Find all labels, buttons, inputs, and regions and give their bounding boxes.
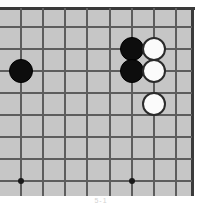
black-stone-left[interactable] [9, 59, 33, 83]
go-diagram-screenshot: 5-1 [0, 0, 209, 205]
black-stone-upper[interactable] [120, 37, 144, 61]
black-stone-lower[interactable] [120, 59, 144, 83]
white-stone-lower[interactable] [142, 59, 166, 83]
board-border-top [0, 7, 195, 10]
white-stone-upper[interactable] [142, 37, 166, 61]
diagram-caption: 5-1 [86, 197, 116, 204]
white-stone-isolated[interactable] [142, 92, 166, 116]
board-border-right [191, 7, 194, 196]
